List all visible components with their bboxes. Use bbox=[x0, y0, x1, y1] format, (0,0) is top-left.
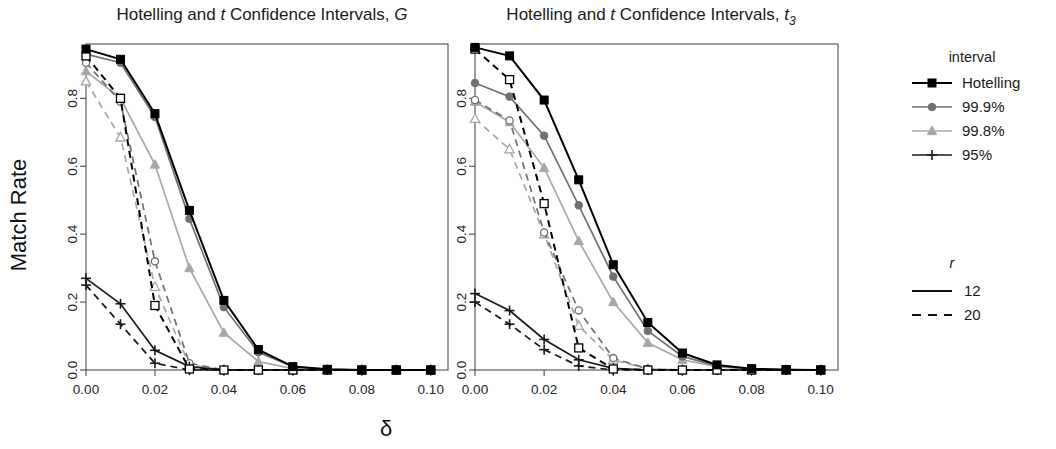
data-point-marker bbox=[575, 202, 583, 210]
data-point-marker bbox=[575, 176, 583, 184]
series-99.9pct-r20 bbox=[82, 59, 434, 374]
legend-interval-label: 99.8% bbox=[962, 122, 1005, 139]
data-point-marker bbox=[115, 319, 125, 329]
y-tick-label: 0.2 bbox=[65, 293, 80, 312]
data-point-marker bbox=[471, 43, 479, 51]
data-point-marker bbox=[644, 366, 652, 374]
data-point-marker bbox=[506, 117, 513, 124]
data-point-marker bbox=[782, 366, 790, 374]
x-tick-label: 0.00 bbox=[73, 382, 99, 397]
data-point-marker bbox=[185, 365, 193, 373]
data-point-marker bbox=[574, 321, 583, 330]
data-point-marker bbox=[713, 361, 721, 369]
data-point-marker bbox=[817, 366, 825, 374]
series-99.8pct-r12 bbox=[81, 66, 435, 373]
data-point-marker bbox=[541, 229, 548, 236]
series-99.9pct-r12 bbox=[82, 50, 434, 373]
data-point-marker bbox=[392, 366, 400, 374]
x-tick-label: 0.00 bbox=[462, 382, 488, 397]
data-point-marker bbox=[610, 355, 617, 362]
legend-r: r1220 bbox=[912, 255, 981, 323]
data-point-marker bbox=[575, 344, 583, 352]
y-tick-label: 0.6 bbox=[454, 157, 469, 176]
x-tick-label: 0.08 bbox=[738, 382, 764, 397]
data-point-marker bbox=[540, 96, 548, 104]
legend-interval-label: 99.9% bbox=[962, 98, 1005, 115]
legend-interval-item-99-8pct[interactable]: 99.8% bbox=[912, 122, 1005, 139]
data-point-marker bbox=[678, 366, 686, 374]
series-line bbox=[86, 71, 431, 370]
data-point-marker bbox=[185, 263, 194, 272]
series-line bbox=[86, 63, 431, 370]
data-point-marker bbox=[427, 366, 435, 374]
y-tick-label: 0.0 bbox=[65, 361, 80, 380]
data-point-marker bbox=[575, 307, 582, 314]
y-tick-label: 0.8 bbox=[65, 89, 80, 108]
data-point-marker bbox=[471, 96, 478, 103]
y-tick-label: 0.6 bbox=[65, 157, 80, 176]
data-point-marker bbox=[220, 366, 228, 374]
x-tick-label: 0.04 bbox=[600, 382, 627, 397]
y-tick-label: 0.8 bbox=[454, 89, 469, 108]
x-tick-label: 0.10 bbox=[418, 382, 444, 397]
data-point-marker bbox=[358, 366, 366, 374]
data-point-marker bbox=[505, 319, 515, 329]
legend-interval-item-95pct[interactable]: 95% bbox=[912, 146, 992, 163]
y-tick-label: 0.4 bbox=[65, 224, 80, 243]
data-point-marker bbox=[185, 206, 193, 214]
plot-svg: Hotelling and t Confidence Intervals, G … bbox=[0, 0, 1056, 449]
panel-G-plot-area: 0.000.020.040.060.080.100.00.20.40.60.8 bbox=[65, 44, 448, 397]
data-point-marker bbox=[151, 258, 158, 265]
data-point-marker bbox=[574, 236, 583, 245]
legend-interval-title: interval bbox=[949, 49, 996, 65]
legend-r-item-12[interactable]: 12 bbox=[912, 282, 981, 299]
data-point-marker bbox=[748, 365, 756, 373]
data-point-marker bbox=[928, 79, 936, 87]
data-point-marker bbox=[151, 301, 159, 309]
panel-title-G: Hotelling and t Confidence Intervals, G bbox=[116, 5, 407, 24]
data-point-marker bbox=[220, 296, 228, 304]
data-point-marker bbox=[254, 346, 262, 354]
data-point-marker bbox=[644, 327, 652, 335]
x-axis-title: δ bbox=[380, 416, 392, 441]
legend-interval-label: 95% bbox=[962, 146, 992, 163]
data-point-marker bbox=[609, 297, 618, 306]
data-point-marker bbox=[254, 366, 262, 374]
data-point-marker bbox=[540, 132, 548, 140]
data-point-marker bbox=[289, 363, 297, 371]
data-point-marker bbox=[150, 160, 159, 169]
series-Hotelling-r12 bbox=[471, 43, 825, 374]
legend-r-label: 12 bbox=[964, 282, 981, 299]
data-point-marker bbox=[678, 349, 686, 357]
data-point-marker bbox=[927, 150, 937, 160]
data-point-marker bbox=[470, 114, 479, 123]
data-point-marker bbox=[506, 52, 514, 60]
data-point-marker bbox=[506, 93, 514, 101]
series-line bbox=[86, 54, 431, 370]
legend-r-title: r bbox=[950, 255, 956, 271]
legend-r-item-20[interactable]: 20 bbox=[912, 306, 981, 323]
legend-interval-item-99-9pct[interactable]: 99.9% bbox=[912, 98, 1005, 115]
data-point-marker bbox=[151, 110, 159, 118]
y-axis-title: Match Rate bbox=[6, 159, 31, 272]
series-line bbox=[86, 56, 431, 370]
figure-container: Hotelling and t Confidence Intervals, G … bbox=[0, 0, 1056, 449]
data-point-marker bbox=[82, 45, 90, 53]
data-point-marker bbox=[470, 289, 480, 299]
x-tick-label: 0.02 bbox=[531, 382, 557, 397]
data-point-marker bbox=[928, 103, 936, 111]
data-point-marker bbox=[539, 345, 549, 355]
series-99.8pct-r20 bbox=[81, 76, 435, 373]
data-point-marker bbox=[540, 200, 548, 208]
data-point-marker bbox=[219, 328, 228, 337]
legend-interval-label: Hotelling bbox=[962, 74, 1020, 91]
series-99.9pct-r12 bbox=[471, 79, 824, 374]
series-Hotelling-r20 bbox=[82, 52, 435, 374]
data-point-marker bbox=[323, 365, 331, 373]
legend-interval-item-Hotelling[interactable]: Hotelling bbox=[912, 74, 1020, 91]
panel-title-t3: Hotelling and t Confidence Intervals, t3 bbox=[506, 5, 796, 28]
panel-t3-plot-area: 0.000.020.040.060.080.100.00.20.40.60.8 bbox=[454, 43, 838, 397]
data-point-marker bbox=[471, 79, 479, 87]
data-point-marker bbox=[609, 365, 617, 373]
data-point-marker bbox=[609, 261, 617, 269]
